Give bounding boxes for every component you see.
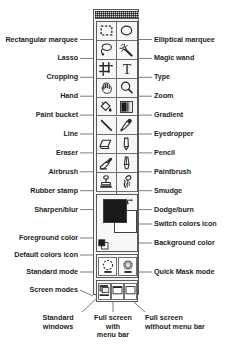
tool-type[interactable]: T bbox=[117, 60, 137, 79]
tool-airbrush[interactable] bbox=[97, 154, 117, 173]
photoshop-toolbox: T bbox=[93, 9, 139, 295]
label-default-colors-icon: Default colors icon bbox=[14, 251, 78, 259]
callout-standard-windows-line2: windows bbox=[32, 323, 84, 332]
default-colors-icon[interactable] bbox=[98, 239, 109, 250]
tool-rubber-stamp[interactable] bbox=[97, 173, 117, 192]
tool-magic-wand[interactable] bbox=[117, 41, 137, 60]
full-screen-with-menu-bar-button[interactable] bbox=[111, 283, 124, 300]
screen-mode-panel bbox=[96, 280, 138, 302]
label-hand: Hand bbox=[60, 92, 78, 100]
label-foreground-color: Foreground color bbox=[19, 234, 78, 242]
label-elliptical-marquee: Elliptical marquee bbox=[154, 36, 215, 44]
label-switch-colors-icon: Switch colors icon bbox=[154, 220, 217, 228]
label-pencil: Pencil bbox=[154, 149, 175, 157]
diagram-canvas: T bbox=[0, 0, 232, 359]
label-rectangular-marquee: Rectangular marquee bbox=[5, 36, 78, 44]
callout-fswomb-line2: without menu bar bbox=[145, 323, 231, 332]
label-line: Line bbox=[63, 130, 78, 138]
tool-paint-bucket[interactable] bbox=[97, 98, 117, 117]
tool-rectangular-marquee[interactable] bbox=[97, 22, 117, 41]
quick-mask-mode-button[interactable] bbox=[118, 257, 137, 276]
label-dodge-burn: Dodge/burn bbox=[154, 206, 194, 214]
tool-hand[interactable] bbox=[97, 79, 117, 98]
label-smudge: Smudge bbox=[154, 187, 182, 195]
tool-crop[interactable] bbox=[97, 60, 117, 79]
mask-mode-panel bbox=[96, 254, 138, 278]
label-airbrush: Airbrush bbox=[48, 168, 78, 176]
label-lasso: Lasso bbox=[57, 54, 78, 62]
tool-lasso[interactable] bbox=[97, 41, 117, 60]
label-screen-modes: Screen modes bbox=[29, 286, 78, 294]
callout-standard-windows: Standard windows bbox=[32, 314, 84, 331]
tool-paintbrush[interactable] bbox=[117, 154, 137, 173]
label-cropping: Cropping bbox=[46, 73, 78, 81]
label-eraser: Eraser bbox=[56, 149, 78, 157]
tool-elliptical-marquee[interactable] bbox=[117, 22, 137, 41]
tool-smudge[interactable] bbox=[117, 173, 137, 192]
label-magic-wand: Magic wand bbox=[154, 54, 194, 62]
svg-text:T: T bbox=[122, 62, 131, 75]
label-eyedropper: Eyedropper bbox=[154, 130, 193, 138]
label-rubber-stamp: Rubber stamp bbox=[30, 187, 78, 195]
tool-grid: T bbox=[96, 21, 138, 192]
switch-colors-icon[interactable] bbox=[125, 196, 136, 207]
tool-gradient[interactable] bbox=[117, 98, 137, 117]
label-standard-mode: Standard mode bbox=[26, 268, 78, 276]
label-paint-bucket: Paint bucket bbox=[36, 111, 78, 119]
color-swatch-panel bbox=[96, 194, 138, 252]
tool-zoom[interactable] bbox=[117, 79, 137, 98]
tool-line[interactable] bbox=[97, 117, 117, 136]
toolbox-title-bar[interactable] bbox=[95, 11, 139, 19]
tool-eyedropper[interactable] bbox=[117, 117, 137, 136]
foreground-color-swatch[interactable] bbox=[103, 199, 127, 223]
callout-full-screen-with-menu-bar: Full screen with menu bar bbox=[88, 314, 138, 340]
full-screen-without-menu-bar-button[interactable] bbox=[124, 283, 137, 300]
callout-full-screen-without-menu-bar: Full screen without menu bar bbox=[145, 314, 231, 331]
label-paintbrush: Paintbrush bbox=[154, 168, 191, 176]
callout-fswmb-line3: menu bar bbox=[88, 331, 138, 340]
standard-mode-button[interactable] bbox=[98, 257, 117, 276]
label-quick-mask-mode: Quick Mask mode bbox=[154, 268, 214, 276]
label-gradient: Gradient bbox=[154, 111, 183, 119]
label-sharpen-blur: Sharpen/blur bbox=[34, 206, 78, 214]
tool-eraser[interactable] bbox=[97, 135, 117, 154]
label-zoom: Zoom bbox=[154, 92, 173, 100]
tool-pencil[interactable] bbox=[117, 135, 137, 154]
standard-windows-button[interactable] bbox=[98, 283, 111, 300]
label-type: Type bbox=[154, 73, 170, 81]
label-background-color: Background color bbox=[154, 239, 215, 247]
